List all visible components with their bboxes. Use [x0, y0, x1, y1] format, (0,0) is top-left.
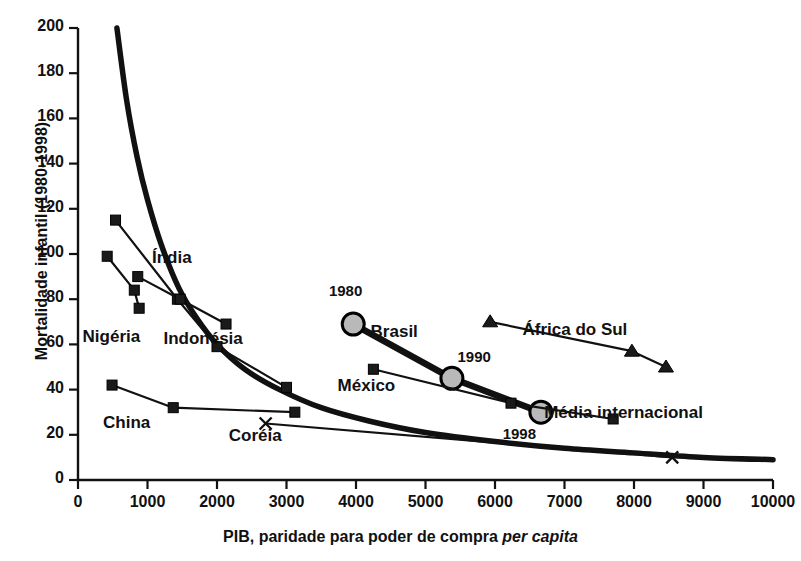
x-tick-label: 10000 — [743, 493, 801, 511]
data-point-marker — [133, 272, 143, 282]
series-line — [266, 424, 673, 458]
y-tick-label: 100 — [12, 243, 64, 261]
data-point-marker — [483, 315, 498, 327]
x-axis-title-italic: per capita — [502, 528, 578, 545]
chart-container: •••• •••••• Mortalidade infantil (1980-1… — [0, 0, 801, 561]
y-tick-label: 60 — [12, 333, 64, 351]
x-tick-label: 2000 — [187, 493, 247, 511]
data-point-marker — [221, 319, 231, 329]
series-label-0: Média internacional — [544, 403, 703, 423]
series-3 — [133, 272, 231, 329]
x-axis-title: PIB, paridade para poder de compra per c… — [0, 528, 801, 546]
series-line — [117, 28, 773, 460]
data-point-marker — [175, 294, 185, 304]
data-point-marker — [506, 398, 516, 408]
data-point-marker — [134, 303, 144, 313]
series-label-8: África do Sul — [522, 320, 627, 340]
y-axis-title: Mortalidade infantil (1980-1998) — [33, 111, 51, 371]
data-point-marker — [111, 215, 121, 225]
x-tick-label: 9000 — [674, 493, 734, 511]
annotation-ann-1980: 1980 — [329, 282, 362, 299]
y-tick-label: 200 — [12, 17, 64, 35]
series-label-4: China — [103, 413, 150, 433]
y-tick-label: 0 — [12, 469, 64, 487]
x-axis-title-plain: PIB, paridade para poder de compra — [223, 528, 502, 545]
data-point-marker — [102, 251, 112, 261]
y-tick-label: 120 — [12, 198, 64, 216]
series-group — [102, 28, 773, 463]
y-tick-label: 180 — [12, 62, 64, 80]
y-tick-label: 20 — [12, 424, 64, 442]
x-tick-label: 5000 — [396, 493, 456, 511]
data-point-marker — [168, 403, 178, 413]
chart-plot-area — [0, 0, 801, 561]
annotation-ann-1990: 1990 — [457, 348, 490, 365]
series-label-1: Índia — [152, 248, 192, 268]
series-0 — [117, 28, 773, 460]
series-label-7: México — [338, 376, 396, 396]
x-tick-label: 8000 — [604, 493, 664, 511]
data-point-marker — [342, 313, 364, 335]
x-tick-label: 0 — [48, 493, 108, 511]
annotation-ann-1998: 1998 — [503, 425, 536, 442]
series-label-3: Indonésia — [163, 329, 242, 349]
y-tick-label: 140 — [12, 153, 64, 171]
series-line — [112, 385, 295, 412]
series-label-5: Coréia — [229, 426, 282, 446]
x-tick-label: 1000 — [118, 493, 178, 511]
series-label-6: Brasil — [371, 322, 418, 342]
y-tick-label: 80 — [12, 288, 64, 306]
y-tick-label: 40 — [12, 379, 64, 397]
data-point-marker — [368, 364, 378, 374]
x-tick-label: 7000 — [535, 493, 595, 511]
data-point-marker — [658, 360, 673, 372]
x-tick-label: 4000 — [326, 493, 386, 511]
data-point-marker — [282, 382, 292, 392]
y-tick-label: 160 — [12, 107, 64, 125]
x-tick-label: 3000 — [257, 493, 317, 511]
data-point-marker — [129, 285, 139, 295]
data-point-marker — [290, 407, 300, 417]
data-point-marker — [107, 380, 117, 390]
series-2 — [102, 251, 144, 313]
series-line — [107, 256, 139, 308]
series-label-2: Nigéria — [83, 327, 141, 347]
x-tick-label: 6000 — [465, 493, 525, 511]
